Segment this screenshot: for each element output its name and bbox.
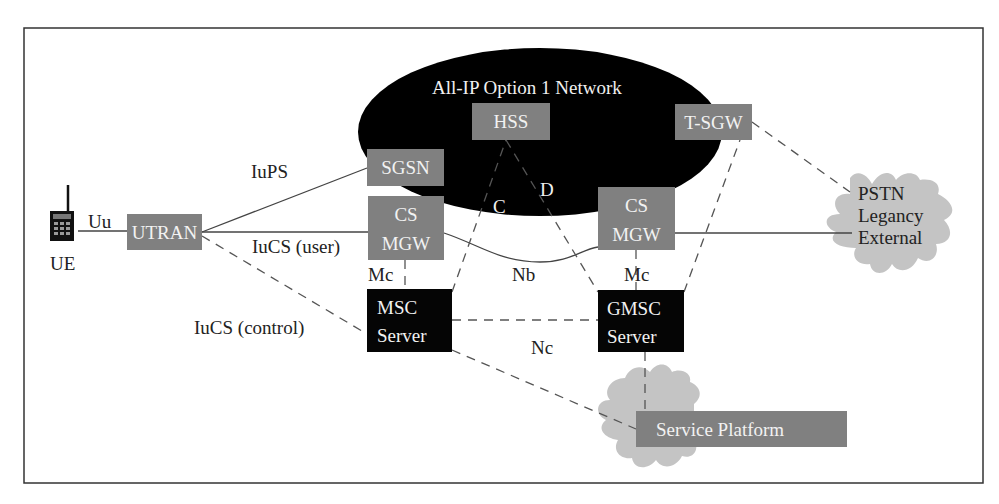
svg-text:GMSC: GMSC <box>607 298 661 319</box>
utran-node: UTRAN <box>127 214 202 250</box>
cs-mgw-right-node: CS MGW <box>598 187 675 250</box>
network-title: All-IP Option 1 Network <box>432 77 622 98</box>
nc-label: Nc <box>531 337 553 358</box>
d-interface-label: D <box>540 179 554 200</box>
cs-mgw-left-node: CS MGW <box>368 196 444 260</box>
svg-text:Server: Server <box>377 325 427 346</box>
hss-node: HSS <box>472 103 550 140</box>
svg-text:UTRAN: UTRAN <box>132 222 198 243</box>
t-sgw-node: T-SGW <box>675 104 752 140</box>
network-diagram: All-IP Option 1 Network UTRAN <box>0 0 999 504</box>
uu-label: Uu <box>88 211 112 232</box>
service-platform-node: Service Platform <box>636 411 847 447</box>
iups-label: IuPS <box>251 161 288 182</box>
svg-text:Legancy: Legancy <box>858 205 924 226</box>
svg-text:CS: CS <box>625 195 648 216</box>
nb-label: Nb <box>512 264 535 285</box>
svg-text:SGSN: SGSN <box>381 157 430 178</box>
svg-text:MGW: MGW <box>612 224 661 245</box>
svg-text:MSC: MSC <box>377 297 417 318</box>
iucs-control-label: IuCS (control) <box>194 317 304 339</box>
svg-text:CS: CS <box>394 204 417 225</box>
mc-left-label: Mc <box>368 264 393 285</box>
svg-text:T-SGW: T-SGW <box>684 112 742 133</box>
svg-text:Service Platform: Service Platform <box>656 419 784 440</box>
sgsn-node: SGSN <box>367 149 444 186</box>
ue-label: UE <box>50 253 75 274</box>
svg-text:External: External <box>858 227 922 248</box>
svg-text:HSS: HSS <box>494 111 529 132</box>
mc-right-label: Mc <box>624 264 649 285</box>
svg-text:MGW: MGW <box>382 233 431 254</box>
iucs-user-label: IuCS (user) <box>252 236 340 258</box>
gmsc-server-node: GMSC Server <box>598 290 684 352</box>
c-interface-label: C <box>493 196 506 217</box>
svg-text:PSTN: PSTN <box>858 183 905 204</box>
msc-server-node: MSC Server <box>367 289 452 352</box>
svg-text:Server: Server <box>607 326 657 347</box>
